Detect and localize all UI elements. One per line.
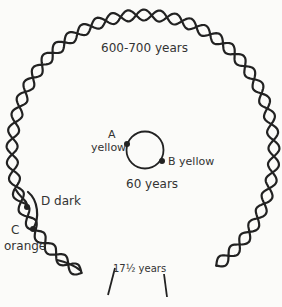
point-d-label: D dark (41, 195, 81, 207)
point-c-color: orange (4, 240, 46, 252)
point-a-color: yellow (91, 142, 126, 153)
cycle-diagram: 600-700 years A yellow B yellow 60 years… (0, 0, 282, 307)
outer-cycle-label: 600-700 years (101, 42, 188, 54)
point-c-dot (30, 226, 36, 232)
point-c-letter: C (11, 224, 19, 236)
point-d-dot (24, 204, 30, 210)
point-b-label: B yellow (168, 156, 214, 167)
point-a-letter: A (108, 129, 116, 140)
tick-mark-2 (164, 274, 167, 297)
inner-cycle-label: 60 years (126, 178, 178, 190)
point-b-dot (159, 158, 165, 164)
inner-cycle-circle (127, 132, 164, 169)
bottom-cycle-label: 17½ years (113, 264, 166, 274)
